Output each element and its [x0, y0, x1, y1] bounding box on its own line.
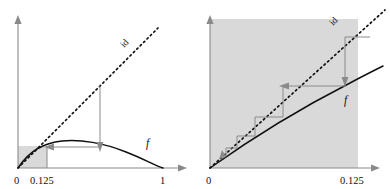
left-panel-svg: id f 0 0.125 1	[0, 0, 195, 189]
left-y-axis-arrowhead	[14, 15, 21, 24]
right-zoom-box-shade	[210, 19, 358, 168]
right-x-axis-arrowhead	[371, 164, 380, 171]
right-xtick-0125: 0.125	[340, 175, 364, 186]
right-panel-svg: id f 0 0.125	[195, 0, 390, 189]
right-panel: id f 0 0.125	[195, 0, 390, 189]
figure-container: id f 0 0.125 1	[0, 0, 390, 189]
left-identity-label: id	[118, 37, 130, 49]
left-f-label: f	[146, 137, 151, 150]
left-xtick-0125: 0.125	[30, 175, 54, 186]
right-xtick-0: 0	[206, 175, 211, 186]
left-xtick-0: 0	[14, 175, 19, 186]
left-panel: id f 0 0.125 1	[0, 0, 195, 189]
left-x-axis-arrowhead	[178, 164, 187, 171]
left-xtick-1: 1	[160, 175, 165, 186]
